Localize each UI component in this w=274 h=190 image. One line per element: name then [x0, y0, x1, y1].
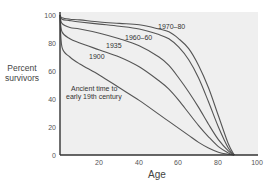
label-ancient-line1: Ancient time to — [71, 85, 117, 92]
label-ancient-line2: early 19th century — [66, 93, 122, 101]
label-1935: 1935 — [106, 42, 122, 49]
y-tick-100: 100 — [44, 12, 56, 19]
y-axis-title-line1: Percent — [7, 63, 37, 73]
y-tick-0: 0 — [52, 152, 56, 159]
label-1960-60: 1960–60 — [125, 34, 152, 41]
label-1970-80: 1970–80 — [158, 23, 185, 30]
x-tick-100: 100 — [251, 159, 263, 166]
x-tick-60: 60 — [174, 159, 182, 166]
x-tick-20: 20 — [95, 159, 103, 166]
x-axis-title: Age — [148, 169, 166, 180]
x-tick-40: 40 — [135, 159, 143, 166]
y-tick-40: 40 — [48, 96, 56, 103]
y-tick-80: 80 — [48, 40, 56, 47]
label-1900: 1900 — [89, 53, 105, 60]
x-tick-80: 80 — [214, 159, 222, 166]
y-tick-60: 60 — [48, 68, 56, 75]
y-tick-20: 20 — [48, 124, 56, 131]
plot-area — [60, 12, 258, 155]
survivorship-chart: 0 20 40 60 80 100 20 40 60 80 100 Percen… — [0, 0, 274, 190]
y-axis-title-line2: survivors — [5, 73, 39, 83]
